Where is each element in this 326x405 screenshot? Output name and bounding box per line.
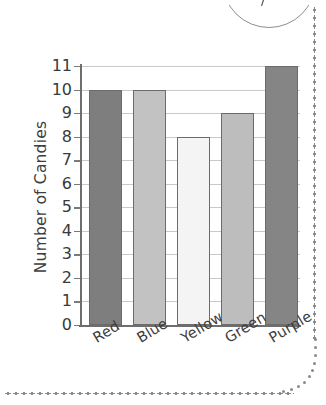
bar-red — [89, 90, 122, 325]
bar-yellow — [177, 137, 210, 325]
y-tick-label: 10 — [30, 82, 72, 98]
y-tick-label: 4 — [30, 223, 72, 239]
y-tick-label: 5 — [30, 199, 72, 215]
y-tick-label: 2 — [30, 270, 72, 286]
y-tick-label: 1 — [30, 293, 72, 309]
y-tick-label: 6 — [30, 176, 72, 192]
y-tick-label: 3 — [30, 246, 72, 262]
bars-group — [80, 66, 300, 325]
bar-blue — [133, 90, 166, 325]
y-tick-label: 9 — [30, 105, 72, 121]
worksheet-page: Number of Candies 11109876543210 RedBlue… — [0, 0, 326, 405]
y-tick-label: 11 — [30, 58, 72, 74]
bar-purple — [265, 66, 298, 325]
y-tick-label: 0 — [30, 317, 72, 333]
bar-green — [221, 113, 254, 325]
y-tick-label: 8 — [30, 129, 72, 145]
y-tick-label: 7 — [30, 152, 72, 168]
bar-chart: Number of Candies 11109876543210 RedBlue… — [0, 0, 326, 405]
